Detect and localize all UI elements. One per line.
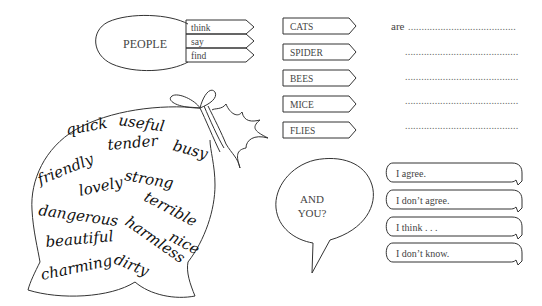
subject-label: FLIES [290, 126, 315, 136]
verb-label: say [191, 37, 204, 47]
adjective: tender [107, 132, 159, 154]
people-group: PEOPLE think say find [96, 15, 254, 70]
verb-label: think [191, 23, 211, 33]
answer-line[interactable]: ........................................ [408, 21, 516, 32]
subject-label: MICE [290, 100, 314, 110]
people-label: PEOPLE [123, 37, 167, 51]
verb-tab[interactable]: find [186, 48, 254, 62]
adjective: dirty [112, 250, 153, 280]
lead-word: are [391, 20, 405, 32]
worksheet: PEOPLE think say find CATS SPIDER BEES [0, 0, 542, 306]
subject-tag[interactable]: BEES [283, 70, 356, 86]
adjective: lovely [77, 173, 125, 200]
adjective: useful [117, 111, 166, 135]
answer-line[interactable]: ........................................… [405, 95, 518, 106]
response-label: I don’t agree. [396, 195, 449, 206]
response-label: I agree. [396, 168, 426, 179]
prompt-bubble: AND YOU? [276, 158, 374, 273]
response-label: I don’t know. [396, 248, 449, 259]
subject-label: BEES [290, 74, 313, 84]
response-bubble[interactable]: I agree. [386, 163, 522, 185]
verb-tab[interactable]: say [186, 34, 254, 48]
response-label: I think . . . [396, 222, 437, 233]
verb-tab[interactable]: think [186, 20, 254, 34]
adjective: charming [39, 251, 114, 284]
answer-line[interactable]: ........................................… [405, 71, 518, 82]
subject-tag[interactable]: CATS [283, 18, 356, 34]
subject-tag[interactable]: SPIDER [283, 44, 356, 60]
adjective: busy [171, 136, 210, 163]
subject-tag[interactable]: FLIES [283, 122, 356, 138]
prompt-line1: AND [300, 193, 324, 205]
response-bubble[interactable]: I don’t agree. [386, 190, 522, 212]
response-bubble[interactable]: I think . . . [386, 217, 522, 239]
prompt-line2: YOU? [298, 207, 327, 219]
subject-tag[interactable]: MICE [283, 96, 356, 112]
answer-line[interactable]: ........................................… [405, 46, 518, 57]
subject-label: SPIDER [290, 48, 323, 58]
subject-list: CATS SPIDER BEES MICE FLIES [283, 18, 356, 138]
answer-line[interactable]: ........................................… [405, 120, 518, 131]
adjective-bag: quick useful tender busy friendly strong… [28, 90, 268, 297]
response-list: I agree. I don’t agree. I think . . . I … [386, 163, 522, 265]
verb-label: find [191, 51, 207, 61]
response-bubble[interactable]: I don’t know. [386, 243, 522, 265]
adjective: quick [65, 114, 109, 139]
completion-area: are ....................................… [391, 20, 518, 131]
bag-top-fringe [212, 104, 268, 168]
subject-label: CATS [290, 22, 313, 32]
adjective: dangerous [37, 201, 119, 230]
adjective: beautiful [45, 227, 114, 251]
